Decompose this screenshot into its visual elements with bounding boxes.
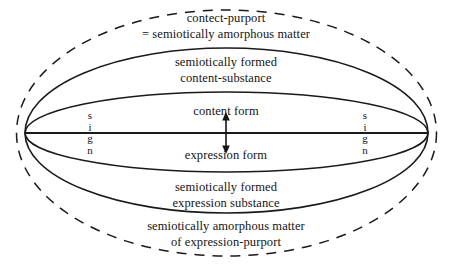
content-substance-label: semiotically formed content-substance [175,55,277,86]
content-substance-line1: semiotically formed [175,55,277,71]
sign-right-letter-2: g [358,133,372,145]
content-purport-line2: = semiotically amorphous matter [142,27,310,43]
sign-right-letter-3: n [358,145,372,157]
expression-purport-label: semiotically amorphous matter of express… [147,219,305,250]
content-form-label: content form [193,104,258,119]
expression-form-label: expression form [185,148,267,163]
expression-purport-line1: semiotically amorphous matter [147,219,305,235]
expression-purport-line2: of expression-purport [147,235,305,251]
content-purport-label: contect-purport = semiotically amorphous… [142,11,310,42]
content-purport-line1: contect-purport [142,11,310,27]
expression-substance-line2: expression substance [172,196,279,212]
expression-substance-label: semiotically formed expression substance [172,180,279,211]
sign-right-letter-0: s [358,110,372,122]
sign-left-letter-0: s [83,110,97,122]
sign-left-letter-3: n [83,145,97,157]
diagram-canvas: contect-purport = semiotically amorphous… [0,0,455,267]
sign-left-letter-2: g [83,133,97,145]
content-substance-line2: content-substance [175,71,277,87]
expression-substance-line1: semiotically formed [172,180,279,196]
sign-label-right: s i g n [358,110,372,156]
sign-label-left: s i g n [83,110,97,156]
